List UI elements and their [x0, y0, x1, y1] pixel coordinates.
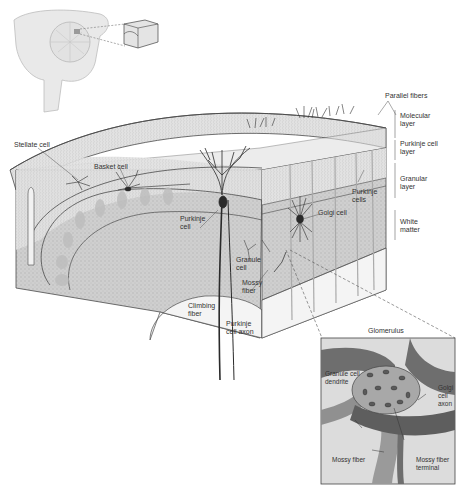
cerebellum-diagram — [0, 0, 469, 493]
label-granular-layer: Granular layer — [400, 175, 427, 191]
label-stellate-cell: Stellate cell — [14, 141, 50, 149]
label-granule-cell-dendrite: Granule cell dendrite — [325, 370, 360, 386]
label-mossy-fiber-terminal: Mossy fiber terminal — [416, 456, 449, 472]
label-purkinje-cell-axon: Purkinje cell axon — [226, 320, 254, 336]
label-purkinje-cell: Purkinje cell — [180, 215, 205, 231]
label-molecular-layer: Molecular layer — [400, 112, 430, 128]
inset-brain-illustration — [14, 10, 158, 112]
label-purkinje-cell-layer: Purkinje cell layer — [400, 140, 438, 156]
label-golgi-cell-axon: Golgi cell axon — [438, 384, 453, 408]
glomerulus-title: Glomerulus — [368, 327, 404, 335]
label-climbing-fiber: Climbing fiber — [188, 302, 215, 318]
label-white-matter: White matter — [400, 218, 420, 234]
label-granule-cell: Granule cell — [236, 256, 261, 272]
label-parallel-fibers: Parallel fibers — [385, 92, 427, 100]
label-basket-cell: Basket cell — [94, 163, 128, 171]
label-mossy-fiber: Mossy fiber — [242, 279, 262, 295]
label-golgi-cell: Golgi cell — [318, 209, 347, 217]
label-purkinje-cells: Purkinje cells — [352, 188, 377, 204]
label-mossy-fiber-glom: Mossy fiber — [332, 456, 365, 464]
